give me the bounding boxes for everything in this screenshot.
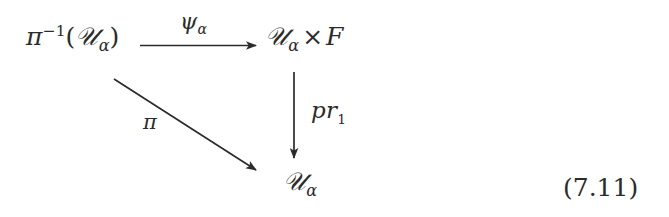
node-source-close-paren: ) xyxy=(109,22,119,51)
node-target-fiber: F xyxy=(326,22,344,51)
node-source-total-space: π−1(𝒰α) xyxy=(26,24,119,54)
arrow-label-psi: ψα xyxy=(180,11,207,36)
arrow-label-pr1-symbol: pr xyxy=(311,97,337,123)
node-base-script-u: 𝒰 xyxy=(283,167,306,196)
node-target-script-u: 𝒰 xyxy=(265,22,288,51)
arrow-label-psi-subscript: α xyxy=(198,21,208,37)
equation-number: (7.11) xyxy=(563,173,638,202)
node-base-open-set: 𝒰α xyxy=(283,169,317,199)
commutative-diagram: π−1(𝒰α) 𝒰α×F 𝒰α ψα π pr1 (7.11) xyxy=(0,0,669,217)
node-source-script-u: 𝒰 xyxy=(75,22,98,51)
node-source-pi: π xyxy=(26,22,43,51)
arrow-label-pi-symbol: π xyxy=(143,110,157,134)
times-operator-icon: × xyxy=(299,22,326,51)
node-source-exponent: −1 xyxy=(43,22,66,40)
arrow-label-pi: π xyxy=(143,112,157,133)
arrow-label-pr1-subscript: 1 xyxy=(337,111,346,127)
arrow-label-psi-symbol: ψ xyxy=(180,9,198,34)
arrow-pi xyxy=(114,79,256,170)
node-source-open-paren: ( xyxy=(66,22,76,51)
node-base-subscript: α xyxy=(306,181,317,200)
node-source-subscript: α xyxy=(99,36,110,55)
node-target-subscript: α xyxy=(288,36,299,55)
node-target-product: 𝒰α×F xyxy=(265,24,344,54)
arrow-label-pr1: pr1 xyxy=(311,99,346,126)
